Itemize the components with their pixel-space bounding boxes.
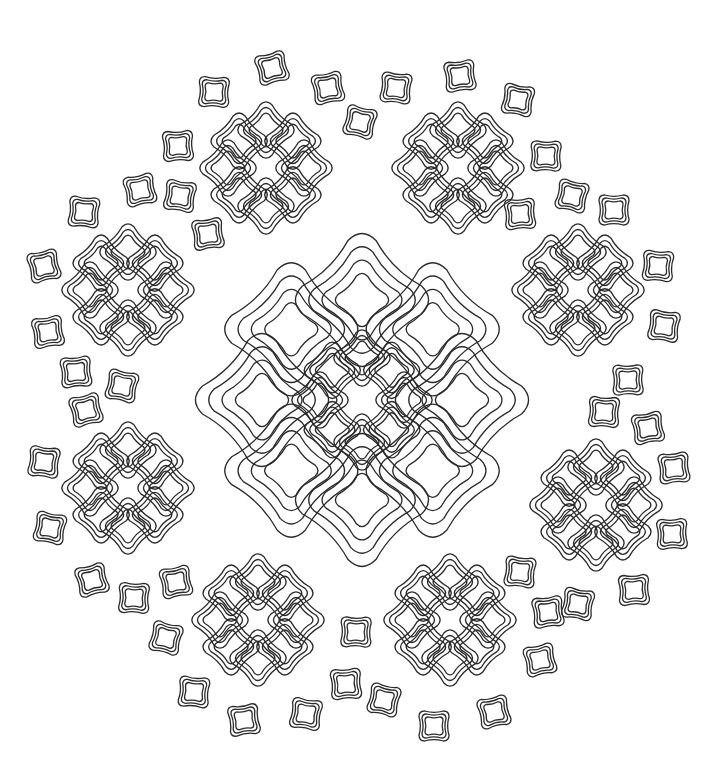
small-square-ornament: [68, 392, 104, 428]
small-square-ornament: [122, 172, 158, 208]
flower-petal: [392, 616, 454, 678]
flower-petal: [538, 501, 600, 563]
small-square-ornament: [656, 518, 687, 549]
small-square-ornament: [342, 104, 378, 140]
small-square-ornament: [191, 217, 225, 251]
flower-petal: [419, 627, 481, 689]
outer-flower: [59, 221, 197, 359]
outer-flower: [197, 99, 335, 237]
outer-flower: [509, 221, 647, 359]
flower-petal: [392, 562, 454, 624]
flower-petal: [97, 297, 159, 359]
small-square-ornament: [504, 556, 537, 589]
flower-petal: [135, 259, 197, 321]
small-square-ornament: [476, 694, 512, 730]
flower-petal: [189, 589, 251, 651]
flower-petal: [200, 616, 262, 678]
large-petal: [288, 426, 435, 573]
flower-petal: [547, 297, 609, 359]
large-petal: [188, 326, 335, 473]
flower-petal: [70, 232, 132, 294]
flower-petal: [547, 221, 609, 283]
small-square-ornament: [631, 411, 666, 446]
small-square-ornament: [561, 587, 596, 622]
flower-petal: [124, 430, 186, 492]
flower-petal: [265, 589, 327, 651]
flower-petal: [565, 436, 627, 498]
small-square-ornament: [104, 368, 140, 404]
flower-petal: [592, 447, 654, 509]
flower-petal: [124, 286, 186, 348]
small-square-ornament: [380, 72, 413, 105]
small-square-ornament: [554, 178, 590, 214]
flower-petal: [565, 512, 627, 574]
large-petal: [288, 226, 435, 373]
flower-petal: [454, 110, 516, 172]
large-petal: [388, 326, 535, 473]
flower-petal: [254, 616, 316, 678]
flower-petal: [527, 474, 589, 536]
flower-petal: [419, 551, 481, 613]
small-square-ornament: [419, 711, 449, 741]
small-square-ornament: [162, 130, 194, 162]
outer-flower: [59, 419, 197, 557]
large-petal: [218, 397, 365, 544]
flower-petal: [585, 259, 647, 321]
outer-flowers-layer: [59, 99, 665, 689]
flower-petal: [400, 110, 462, 172]
flower-petal: [457, 589, 519, 651]
flower-petal: [227, 551, 289, 613]
flower-petal: [59, 457, 121, 519]
large-petal-ring: [188, 226, 535, 573]
flower-petal: [124, 484, 186, 546]
small-square-ornament: [74, 562, 111, 599]
small-square-ornament: [60, 356, 93, 389]
large-petal: [218, 256, 365, 403]
small-square-ornament: [531, 595, 564, 628]
small-square-ornament: [158, 564, 193, 599]
outer-flower: [527, 436, 665, 574]
small-square-ornament: [163, 179, 197, 213]
small-square-ornament: [341, 617, 372, 648]
small-square-ornament: [647, 309, 681, 343]
small-square-ornament: [658, 452, 691, 485]
flower-petal: [520, 286, 582, 348]
flower-petal: [97, 221, 159, 283]
flower-petal: [70, 484, 132, 546]
flower-petal: [208, 164, 270, 226]
small-square-ornament: [310, 70, 345, 105]
flower-petal: [509, 259, 571, 321]
flower-petal: [603, 474, 665, 536]
flower-petal: [70, 286, 132, 348]
flower-petal: [254, 562, 316, 624]
small-square-ornament: [26, 248, 62, 284]
small-squares-layer: [26, 50, 690, 741]
flower-petal: [135, 457, 197, 519]
flower-petal: [124, 232, 186, 294]
flower-petal: [520, 232, 582, 294]
flower-petal: [235, 175, 297, 237]
small-square-ornament: [118, 582, 149, 613]
flower-petal: [262, 110, 324, 172]
flower-petal: [465, 137, 527, 199]
flower-petal: [97, 495, 159, 557]
small-square-ornament: [198, 76, 229, 107]
flower-petal: [200, 562, 262, 624]
flower-petal: [592, 501, 654, 563]
small-square-ornament: [68, 196, 101, 229]
flower-petal: [574, 286, 636, 348]
small-square-ornament: [254, 50, 291, 87]
flower-petal: [538, 447, 600, 509]
flower-petal: [235, 99, 297, 161]
flower-petal: [381, 589, 443, 651]
small-square-ornament: [613, 365, 644, 396]
small-square-ornament: [443, 59, 476, 92]
flower-petal: [574, 232, 636, 294]
flower-petal: [446, 562, 508, 624]
small-square-ornament: [330, 668, 362, 700]
small-square-ornament: [178, 676, 211, 709]
flower-petal: [262, 164, 324, 226]
small-square-ornament: [531, 141, 562, 172]
small-square-ornament: [522, 642, 558, 678]
flower-petal: [389, 137, 451, 199]
